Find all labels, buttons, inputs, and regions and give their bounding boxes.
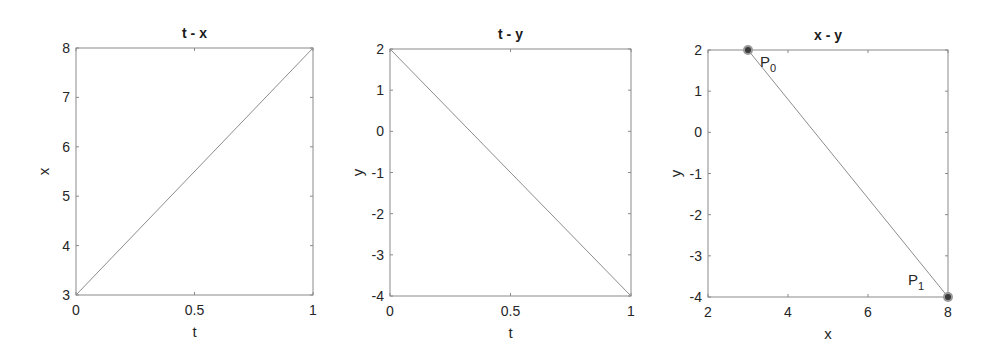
y-axis-label: x <box>35 167 52 175</box>
y-tick-label: 8 <box>62 40 70 56</box>
y-tick-label: 4 <box>62 238 70 254</box>
x-tick-label: 2 <box>704 304 712 320</box>
y-axis-label: y <box>349 168 366 176</box>
x-tick-label: 1 <box>627 303 635 319</box>
point-label-subscript: 0 <box>770 62 776 74</box>
y-tick-label: -2 <box>690 207 703 223</box>
y-tick-label: 0 <box>694 124 702 140</box>
x-axis-label: t <box>508 324 513 341</box>
point-marker <box>745 47 751 53</box>
x-tick-label: 6 <box>864 304 872 320</box>
y-tick-label: -4 <box>372 288 385 304</box>
chart-title: t - x <box>182 25 207 41</box>
chart-title: t - y <box>498 26 523 42</box>
subplot-x-y: 2468-4-3-2-1012x - yxyP0P1 <box>667 27 953 342</box>
x-tick-label: 1 <box>309 302 317 318</box>
y-tick-label: 1 <box>694 83 702 99</box>
x-tick-label: 0 <box>72 302 80 318</box>
y-tick-label: 7 <box>62 89 70 105</box>
y-tick-label: 5 <box>62 188 70 204</box>
y-tick-label: 3 <box>62 287 70 303</box>
point-marker <box>945 294 951 300</box>
y-tick-label: -1 <box>372 165 385 181</box>
x-tick-label: 0.5 <box>185 302 205 318</box>
x-axis-label: t <box>192 323 197 340</box>
y-axis-label: y <box>667 169 684 177</box>
subplot-t-y: 00.51-4-3-2-1012t - yty <box>349 26 635 341</box>
chart-title: x - y <box>814 27 842 43</box>
subplot-t-x: 00.51345678t - xtx <box>35 25 317 340</box>
y-tick-label: -3 <box>690 248 703 264</box>
x-tick-label: 0 <box>386 303 394 319</box>
y-tick-label: -4 <box>690 289 703 305</box>
y-tick-label: 2 <box>694 42 702 58</box>
y-tick-label: 2 <box>376 41 384 57</box>
x-axis-label: x <box>824 325 832 342</box>
y-tick-label: 1 <box>376 82 384 98</box>
y-tick-label: -3 <box>372 247 385 263</box>
x-tick-label: 8 <box>944 304 952 320</box>
figure: 00.51345678t - xtx00.51-4-3-2-1012t - yt… <box>0 0 996 355</box>
y-tick-label: 0 <box>376 123 384 139</box>
point-label-subscript: 1 <box>918 280 924 292</box>
y-tick-label: 6 <box>62 139 70 155</box>
axes-frame <box>708 50 948 297</box>
x-tick-label: 4 <box>784 304 792 320</box>
x-tick-label: 0.5 <box>501 303 521 319</box>
y-tick-label: -2 <box>372 206 385 222</box>
y-tick-label: -1 <box>690 166 703 182</box>
